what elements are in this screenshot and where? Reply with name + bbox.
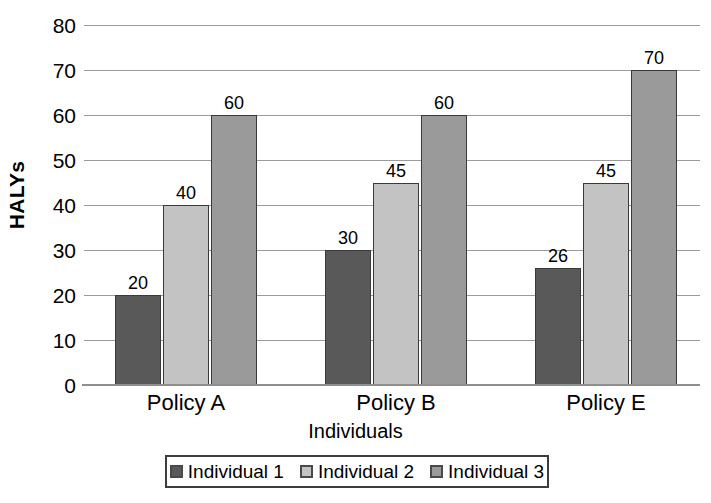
legend-swatch-icon [300,465,313,478]
chart-legend: Individual 1Individual 2Individual 3 [165,455,549,488]
bar-value-label: 60 [434,94,454,112]
gridline [84,115,700,116]
x-axis-title: Individuals [0,420,711,443]
y-axis-title: HALYs [2,0,32,390]
plot-area: 204060304560264570 [84,25,700,385]
y-axis-tick-label: 0 [64,375,76,396]
bar [373,183,419,386]
y-axis-tick-label: 60 [53,105,76,126]
gridline [84,25,700,26]
y-axis-tick-label: 50 [53,150,76,171]
legend-label: Individual 1 [188,462,284,481]
y-axis-tick-label: 10 [53,330,76,351]
legend-item[interactable]: Individual 3 [430,462,544,481]
bar-value-label: 20 [128,274,148,292]
gridline [84,70,700,71]
legend-label: Individual 2 [318,462,414,481]
legend-item[interactable]: Individual 2 [300,462,414,481]
bar [115,295,161,385]
bar-value-label: 45 [596,162,616,180]
bar-value-label: 30 [338,229,358,247]
bar [211,115,257,385]
bar [163,205,209,385]
bar [325,250,371,385]
y-axis-tick-labels: 01020304050607080 [34,0,80,390]
y-axis-tick-label: 40 [53,195,76,216]
y-axis-tick-label: 30 [53,240,76,261]
x-axis-line [82,384,700,386]
legend-item[interactable]: Individual 1 [170,462,284,481]
bar [631,70,677,385]
bar-value-label: 26 [548,247,568,265]
bar [535,268,581,385]
bar [583,183,629,386]
bar [421,115,467,385]
y-axis-tick-label: 70 [53,60,76,81]
legend-label: Individual 3 [448,462,544,481]
x-axis-category-label: Policy E [566,390,645,416]
x-axis-category-labels: Policy APolicy BPolicy E [84,390,700,422]
x-axis-category-label: Policy B [356,390,435,416]
y-axis-tick-label: 80 [53,15,76,36]
bar-value-label: 40 [176,184,196,202]
y-axis-title-text: HALYs [5,161,29,229]
legend-swatch-icon [170,465,183,478]
bar-chart: HALYs 01020304050607080 2040603045602645… [0,0,711,503]
legend-swatch-icon [430,465,443,478]
bar-value-label: 60 [224,94,244,112]
bar-value-label: 70 [644,49,664,67]
y-axis-tick-label: 20 [53,285,76,306]
bar-value-label: 45 [386,162,406,180]
x-axis-category-label: Policy A [147,390,225,416]
